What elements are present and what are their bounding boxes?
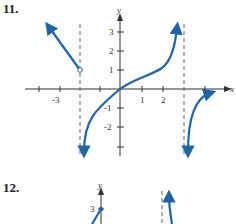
y-tick-label: 1 bbox=[109, 65, 114, 75]
y-tick-label: -2 bbox=[104, 122, 112, 132]
branch-12-right bbox=[169, 196, 172, 224]
y-tick-label-12: 3 bbox=[90, 204, 95, 214]
figure-12: y 3 bbox=[90, 180, 172, 224]
x-tick-label: 1 bbox=[140, 95, 145, 105]
y-tick-label: 2 bbox=[109, 46, 114, 56]
x-tick-label: -3 bbox=[52, 95, 60, 105]
y-tick-label: -1 bbox=[104, 103, 112, 113]
x-tick-label: 2 bbox=[161, 95, 166, 105]
figure-11: x y -3 1 2 3 2 1 -1 -2 bbox=[25, 5, 234, 156]
open-circle bbox=[78, 68, 83, 73]
right-branch bbox=[188, 93, 210, 152]
closed-dot bbox=[99, 207, 104, 212]
graphs: x y -3 1 2 3 2 1 -1 -2 bbox=[0, 0, 236, 224]
y-axis-label-12: y bbox=[97, 180, 102, 190]
y-tick-label: 3 bbox=[109, 27, 114, 37]
left-ray bbox=[49, 27, 80, 70]
x-axis-label: x bbox=[229, 84, 234, 94]
y-axis-label: y bbox=[116, 5, 121, 15]
